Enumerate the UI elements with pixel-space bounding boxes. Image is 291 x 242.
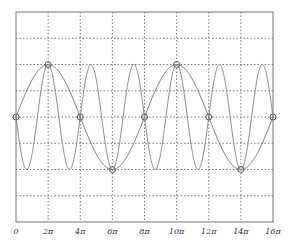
x-tick-label: 2π <box>42 227 54 236</box>
line-chart: 02π4π6π8π10π12π14π16π <box>0 0 291 242</box>
x-tick-label: 8π <box>139 227 150 236</box>
x-tick-label: 6π <box>107 227 118 236</box>
x-axis-tick-labels: 02π4π6π8π10π12π14π16π <box>13 227 281 236</box>
x-tick-label: 10π <box>169 227 185 236</box>
x-tick-label: 14π <box>233 227 249 236</box>
x-tick-label: 4π <box>74 227 86 236</box>
x-tick-label: 16π <box>265 227 281 236</box>
x-tick-label: 12π <box>201 227 217 236</box>
x-tick-label: 0 <box>13 227 18 236</box>
